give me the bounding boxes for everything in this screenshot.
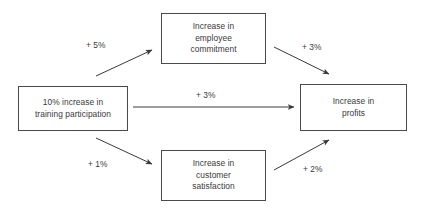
edge-label-training-to-satisfaction: + 1%: [88, 159, 107, 169]
node-employee-commitment[interactable]: Increase in employee commitment: [161, 13, 266, 64]
edge-label-commitment-to-profits: + 3%: [302, 42, 321, 52]
edge-label-training-to-profits: + 3%: [196, 90, 215, 100]
node-increase-in-profits[interactable]: Increase in profits: [300, 84, 407, 131]
node-training-participation[interactable]: 10% increase in training participation: [18, 86, 128, 131]
diagram-canvas: 10% increase in training participation I…: [0, 0, 423, 209]
edge-label-satisfaction-to-profits: + 2%: [303, 164, 322, 174]
edge-label-training-to-commitment: + 5%: [86, 40, 105, 50]
node-customer-satisfaction[interactable]: Increase in customer satisfaction: [161, 150, 266, 201]
arrow-training-to-commitment: [96, 50, 152, 76]
